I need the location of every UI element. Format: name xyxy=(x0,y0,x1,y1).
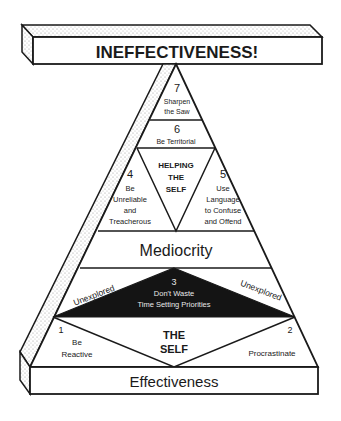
level-2-number: 2 xyxy=(287,325,292,335)
level-3-line-1: Don't Waste xyxy=(154,289,194,298)
level-1-line-1: Be xyxy=(72,338,82,347)
helping-self-line-2: THE xyxy=(168,173,185,182)
level-5-line-3: to Confuse xyxy=(205,206,241,215)
level-7-number: 7 xyxy=(174,82,180,94)
level-4-line-3: and xyxy=(124,206,137,215)
level-4-number: 4 xyxy=(127,168,133,180)
level-2-label: Procrastinate xyxy=(248,349,296,358)
level-4-line-2: Unreliable xyxy=(113,195,147,204)
mediocrity-label: Mediocrity xyxy=(140,242,213,259)
level-6-number: 6 xyxy=(174,123,180,135)
pyramid-diagram: INEFFECTIVENESS! 7 Sharpen the Saw 6 Be … xyxy=(0,0,341,421)
level-5-line-1: Use xyxy=(216,184,229,193)
level-3-number: 3 xyxy=(171,277,176,287)
level-5-number: 5 xyxy=(220,168,226,180)
effectiveness-label: Effectiveness xyxy=(130,373,219,390)
level-4-line-4: Treacherous xyxy=(109,217,151,226)
level-3-line-2: Time Setting Priorities xyxy=(137,300,210,309)
the-self-line-2: SELF xyxy=(160,343,188,355)
helping-self-line-3: SELF xyxy=(166,185,187,194)
level-1-number: 1 xyxy=(58,325,63,335)
the-self-line-1: THE xyxy=(163,329,185,341)
level-5-line-4: and Offend xyxy=(205,217,242,226)
helping-self-line-1: HELPING xyxy=(158,161,194,170)
top-beam-top-face xyxy=(22,25,322,37)
ineffectiveness-label: INEFFECTIVENESS! xyxy=(96,43,258,62)
level-6-label: Be Territorial xyxy=(156,138,196,145)
level-5-line-2: Language xyxy=(206,195,239,204)
level-4-line-1: Be xyxy=(125,184,134,193)
level-7-line-2: the Saw xyxy=(164,108,190,115)
level-1-line-2: Reactive xyxy=(61,350,93,359)
level-7-line-1: Sharpen xyxy=(164,98,191,106)
